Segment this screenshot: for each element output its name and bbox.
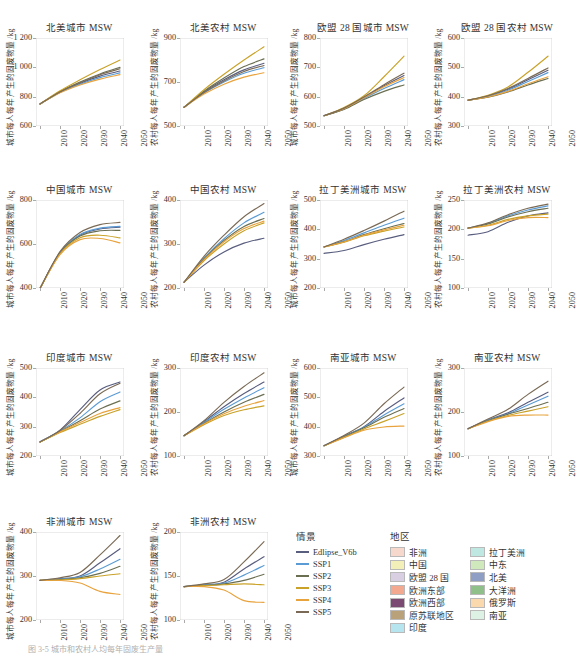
y-tick-label: 200 <box>146 527 176 536</box>
legend-region-item[interactable]: 中东 <box>470 559 525 572</box>
y-tick-mark <box>33 576 36 577</box>
legend-scenario-list: Edlipse_V6bSSP1SSP2SSP3SSP4SSP5 <box>296 546 357 618</box>
legend-region-item[interactable]: 中国 <box>390 559 454 572</box>
x-tick-mark <box>264 288 265 291</box>
chart-title: 中国城市 MSW <box>28 182 130 196</box>
y-tick-label: 600 <box>430 33 460 42</box>
y-tick-label: 100 <box>430 451 460 460</box>
x-tick-mark <box>184 288 185 291</box>
y-tick-label: 600 <box>2 239 32 248</box>
chart-panel: 印度城市 MSW城市每人每年产生的固废物量 /kg200300400500201… <box>2 348 130 492</box>
chart-title: 南亚农村 MSW <box>456 350 558 364</box>
x-tick-label: 2040 <box>548 292 557 308</box>
x-tick-label: 2020 <box>80 460 89 476</box>
legend-scenario-item[interactable]: SSP3 <box>296 582 357 594</box>
x-tick-label: 2040 <box>264 460 273 476</box>
legend-region-item[interactable]: 拉丁美洲 <box>470 546 525 559</box>
legend-region-item[interactable]: 大洋洲 <box>470 584 525 597</box>
x-tick-label: 2040 <box>120 130 129 146</box>
legend-region-item[interactable]: 欧洲东部 <box>390 584 454 597</box>
x-tick-mark <box>184 456 185 459</box>
y-tick-label: 400 <box>286 224 316 233</box>
y-tick-label: 300 <box>286 254 316 263</box>
y-tick-mark <box>461 368 464 369</box>
legend-region-item[interactable]: 南亚 <box>470 609 525 622</box>
legend-scenario-item[interactable]: Edlipse_V6b <box>296 546 357 558</box>
legend-region-item[interactable]: 印度 <box>390 622 454 635</box>
x-tick-mark <box>40 126 41 129</box>
y-tick-label: 400 <box>146 195 176 204</box>
chart-panel: 南亚城市 MSW城市每人每年产生的固废物量 /kg300400500600201… <box>286 348 414 492</box>
y-tick-mark <box>461 288 464 289</box>
x-tick-mark <box>264 456 265 459</box>
x-tick-label: 2010 <box>60 130 69 146</box>
x-tick-mark <box>324 126 325 129</box>
y-tick-label: 400 <box>286 422 316 431</box>
legend-region-item[interactable]: 欧洲西部 <box>390 596 454 609</box>
chart-panel: 非洲城市 MSW城市每人每年产生的固废物量 /kg200300400201020… <box>2 512 130 655</box>
x-tick-label: 2020 <box>364 130 373 146</box>
chart-title: 欧盟 28 国农村 MSW <box>456 20 558 34</box>
x-tick-label: 2010 <box>488 460 497 476</box>
chart-title: 南亚城市 MSW <box>312 350 414 364</box>
y-tick-mark <box>177 126 180 127</box>
x-tick-label: 2020 <box>80 130 89 146</box>
y-tick-mark <box>461 259 464 260</box>
y-tick-label: 200 <box>146 407 176 416</box>
legend-region-item[interactable]: 北美 <box>470 571 525 584</box>
x-tick-mark <box>548 456 549 459</box>
x-tick-label: 2020 <box>364 460 373 476</box>
x-tick-mark <box>80 456 81 459</box>
plot-area <box>36 200 124 288</box>
legend-color-swatch <box>390 585 405 595</box>
y-tick-label: 100 <box>146 451 176 460</box>
x-tick-label: 2040 <box>264 292 273 308</box>
chart-title: 拉丁美洲农村 MSW <box>456 182 558 196</box>
x-tick-mark <box>120 288 121 291</box>
legend-region-item[interactable]: 欧盟 28 国 <box>390 571 454 584</box>
x-tick-label: 2010 <box>488 292 497 308</box>
legend-scenario-item[interactable]: SSP4 <box>296 594 357 606</box>
x-tick-mark <box>324 456 325 459</box>
x-tick-mark <box>528 288 529 291</box>
legend-scenario-item[interactable]: SSP5 <box>296 606 357 618</box>
x-tick-label: 2020 <box>364 292 373 308</box>
y-tick-mark <box>177 412 180 413</box>
x-tick-mark <box>60 620 61 623</box>
legend-scenario-item[interactable]: SSP2 <box>296 570 357 582</box>
chart-title: 印度城市 MSW <box>28 350 130 364</box>
legend-region-label: 欧盟 28 国 <box>409 571 449 584</box>
legend-region-label: 北美 <box>489 571 507 584</box>
x-tick-label: 2010 <box>60 460 69 476</box>
legend-scenario-label: SSP1 <box>313 560 331 569</box>
plot-area <box>36 368 124 456</box>
chart-panel: 中国城市 MSW城市每人每年产生的固废物量 /kg400600800201020… <box>2 180 130 324</box>
y-tick-label: 150 <box>430 254 460 263</box>
y-tick-label: 200 <box>430 224 460 233</box>
plot-area <box>320 368 408 456</box>
chart-title: 北美城市 MSW <box>28 20 130 34</box>
x-tick-label: 2030 <box>100 624 109 640</box>
x-tick-mark <box>204 288 205 291</box>
y-tick-mark <box>177 368 180 369</box>
legend-region-item[interactable]: 俄罗斯 <box>470 596 525 609</box>
y-tick-label: 200 <box>286 283 316 292</box>
x-tick-label: 2020 <box>224 292 233 308</box>
chart-title: 北美农村 MSW <box>172 20 274 34</box>
legend-region-item[interactable]: 非洲 <box>390 546 454 559</box>
y-tick-label: 500 <box>286 195 316 204</box>
x-tick-mark <box>264 126 265 129</box>
legend-region-item[interactable]: 原苏联地区 <box>390 609 454 622</box>
x-tick-mark <box>224 620 225 623</box>
plot-area <box>180 200 268 288</box>
x-tick-mark <box>244 126 245 129</box>
x-tick-mark <box>404 288 405 291</box>
chart-title: 拉丁美洲城市 MSW <box>312 182 414 196</box>
x-tick-label: 2020 <box>224 460 233 476</box>
legend-line-swatch <box>296 551 309 553</box>
y-tick-label: 300 <box>146 239 176 248</box>
legend-color-swatch <box>470 610 485 620</box>
x-tick-mark <box>184 620 185 623</box>
legend-scenario-item[interactable]: SSP1 <box>296 558 357 570</box>
x-tick-label: 2030 <box>384 292 393 308</box>
